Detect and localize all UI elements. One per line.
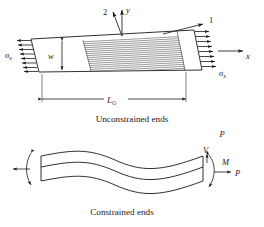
right-moment-arc — [209, 155, 214, 187]
sigma-x-left-label: σx — [5, 50, 12, 61]
lower-caption: Constrained ends — [90, 207, 154, 217]
axis-y-label: y — [125, 5, 130, 15]
beam-top-edge — [41, 151, 203, 168]
moment-label: M — [221, 157, 230, 167]
upper-diagram: σx σx y 2 1 x w — [5, 5, 250, 124]
upper-caption: Unconstrained ends — [96, 114, 169, 124]
sigma-x-right-label: σx — [219, 68, 226, 79]
gauge-length-dimension: LG — [42, 72, 186, 106]
material-axis-1-label: 1 — [209, 15, 213, 25]
axial-label: P — [234, 168, 240, 178]
load-label-top: P — [218, 129, 224, 139]
lower-diagram: P V M P Constrained ends — [13, 129, 240, 217]
width-label: w — [48, 51, 54, 61]
material-axis-1-arrow — [163, 24, 203, 34]
composite-specimen-figure: σx σx y 2 1 x w — [0, 0, 264, 227]
material-axis-2-arrow — [113, 12, 122, 36]
material-axis-2-label: 2 — [103, 7, 107, 17]
figure-canvas: σx σx y 2 1 x w — [0, 0, 264, 227]
width-dimension: w — [48, 41, 62, 70]
beam-bottom-edge — [41, 176, 203, 193]
shear-label: V — [203, 145, 210, 155]
axis-x-label: x — [245, 51, 250, 61]
